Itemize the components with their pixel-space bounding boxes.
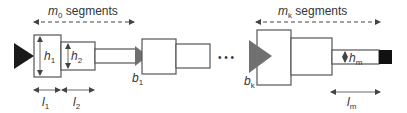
segmented-beam-diagram: m0 segments mk segments h1 h2 b1 • • • b… xyxy=(0,0,407,113)
l1-label: l1 xyxy=(42,95,50,111)
segment-4 xyxy=(142,39,176,74)
ellipsis: • • • xyxy=(218,52,235,63)
tip-block xyxy=(379,50,392,64)
segment-3 xyxy=(95,49,137,63)
root-support-triangle xyxy=(14,43,34,69)
lm-label: lm xyxy=(347,95,357,111)
segment-k2 xyxy=(291,38,332,75)
group-right-label: mk segments xyxy=(278,4,347,20)
bk-label: bk xyxy=(244,74,256,90)
group-left-label: m0 segments xyxy=(48,4,118,20)
l2-label: l2 xyxy=(73,95,81,111)
segment-5 xyxy=(176,44,210,68)
